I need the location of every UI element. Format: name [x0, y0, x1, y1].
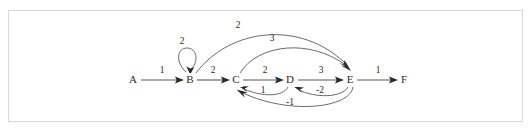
edge-b-e-weight: 2 — [236, 20, 241, 30]
graph-svg: 1 2 2 3 1 2 — [0, 0, 532, 131]
edge-e-c: -1 — [237, 87, 354, 107]
diagram-canvas: 1 2 2 3 1 2 — [0, 0, 532, 131]
edge-e-c-weight: -1 — [286, 97, 294, 107]
edge-d-c-arc-path — [244, 87, 288, 95]
edge-c-e: 3 — [240, 33, 351, 73]
edge-e-f: 1 — [357, 65, 398, 83]
edge-d-c-weight: 1 — [261, 85, 266, 95]
edge-e-d: -2 — [294, 85, 349, 95]
edge-d-e: 3 — [298, 65, 344, 83]
edge-c-e-arrowhead — [341, 62, 351, 71]
edge-b-b-weight: 2 — [180, 36, 185, 46]
edge-e-f-weight: 1 — [376, 65, 381, 75]
edge-b-c-weight: 2 — [211, 65, 216, 75]
edge-e-d-weight: -2 — [316, 85, 324, 95]
node-f-label: F — [401, 73, 407, 85]
edge-d-c: 1 — [239, 85, 289, 95]
edge-b-c: 2 — [197, 65, 230, 83]
node-e-label: E — [347, 73, 354, 85]
node-c-label: C — [232, 73, 239, 85]
edge-c-d: 2 — [243, 65, 284, 83]
edge-c-e-weight: 3 — [270, 33, 275, 43]
edge-c-d-weight: 2 — [263, 65, 268, 75]
edge-d-e-weight: 3 — [319, 65, 324, 75]
edge-b-e: 2 — [196, 20, 350, 73]
edge-a-b: 1 — [141, 65, 184, 83]
node-a-label: A — [129, 73, 137, 85]
edge-b-b-self-loop: 2 — [179, 36, 196, 74]
node-d-label: D — [286, 73, 294, 85]
node-b-label: B — [186, 73, 193, 85]
edge-a-b-weight: 1 — [160, 65, 165, 75]
edge-e-c-arc-path — [243, 87, 353, 106]
